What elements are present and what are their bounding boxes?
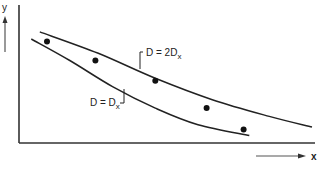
label-d-2dx: D = 2Dx (140, 47, 181, 69)
data-point-3 (152, 78, 158, 84)
leader-line-d-2dx (140, 52, 143, 69)
label-d-dx-main: D = D (90, 97, 116, 108)
label-d-2dx-main: D = 2D (146, 47, 177, 58)
label-d-dx-sub: x (116, 102, 120, 111)
x-axis-label: x (311, 151, 317, 162)
data-point-4 (204, 105, 210, 111)
data-point-2 (92, 58, 98, 64)
y-arrowhead-icon (3, 16, 8, 23)
data-point-5 (241, 127, 247, 133)
data-point-1 (44, 38, 50, 44)
label-d-2dx-sub: x (177, 52, 181, 61)
svg-text:D = Dx: D = Dx (90, 97, 120, 111)
chart: y x D = 2Dx D = Dx (0, 0, 320, 172)
y-axis-label: y (2, 2, 7, 13)
label-d-dx: D = Dx (90, 89, 124, 111)
x-arrowhead-icon (298, 154, 306, 159)
svg-text:D = 2Dx: D = 2Dx (146, 47, 181, 61)
